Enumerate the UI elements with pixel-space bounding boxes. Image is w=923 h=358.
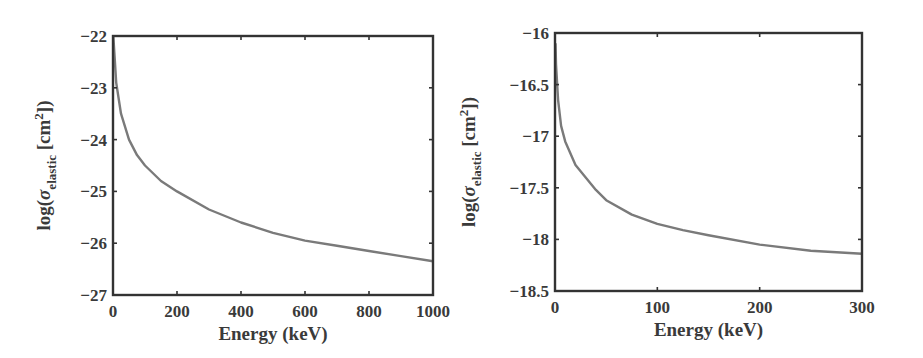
y-tick-label: −18.5 — [510, 282, 549, 301]
x-tick-label: 100 — [645, 298, 671, 317]
y-tick-label: −18 — [522, 230, 549, 249]
x-tick-label: 300 — [849, 298, 875, 317]
series-line — [113, 36, 433, 261]
left-chart: log(σelastic [cm2]) −22−23−24−25−26−27 0… — [31, 27, 450, 345]
figure: log(σelastic [cm2]) −22−23−24−25−26−27 0… — [0, 0, 923, 358]
x-tick-label: 0 — [109, 302, 118, 321]
y-tick-label: −23 — [80, 79, 107, 98]
y-tick-label: −17.5 — [510, 179, 549, 198]
y-axis-label-text: log(σelastic [cm2]) — [456, 97, 484, 227]
tick-marks — [113, 36, 433, 295]
y-axis-label: log(σelastic [cm2]) — [456, 97, 484, 227]
x-tick-label: 400 — [228, 302, 254, 321]
x-tick-label: 200 — [164, 302, 190, 321]
y-tick-label: −27 — [80, 286, 107, 305]
plot-frame — [113, 36, 433, 295]
data-curve — [113, 36, 433, 261]
y-tick-label: −25 — [80, 182, 107, 201]
x-tick-label: 800 — [356, 302, 382, 321]
series-line — [556, 43, 863, 254]
x-axis-label: Energy (keV) — [218, 323, 327, 345]
y-tick-labels: −22−23−24−25−26−27 — [80, 27, 107, 305]
x-tick-label: 600 — [292, 302, 318, 321]
data-curve — [556, 43, 863, 254]
y-tick-label: −16.5 — [510, 76, 549, 95]
y-axis-label: log(σelastic [cm2]) — [31, 100, 59, 230]
x-tick-label: 0 — [551, 298, 560, 317]
right-chart: log(σelastic [cm2]) −16−16.5−17−17.5−18−… — [456, 24, 875, 341]
y-tick-label: −26 — [80, 234, 107, 253]
x-tick-label: 1000 — [416, 302, 450, 321]
y-tick-label: −17 — [522, 127, 549, 146]
y-axis-label-text: log(σelastic [cm2]) — [31, 100, 59, 230]
y-tick-label: −16 — [522, 24, 549, 43]
x-tick-label: 200 — [747, 298, 773, 317]
x-tick-labels: 02004006008001000 — [109, 302, 450, 321]
y-tick-labels: −16−16.5−17−17.5−18−18.5 — [510, 24, 550, 301]
y-tick-label: −22 — [80, 27, 107, 46]
y-tick-label: −24 — [80, 131, 107, 150]
x-tick-labels: 0100200300 — [551, 298, 875, 317]
x-axis-label: Energy (keV) — [654, 319, 763, 341]
